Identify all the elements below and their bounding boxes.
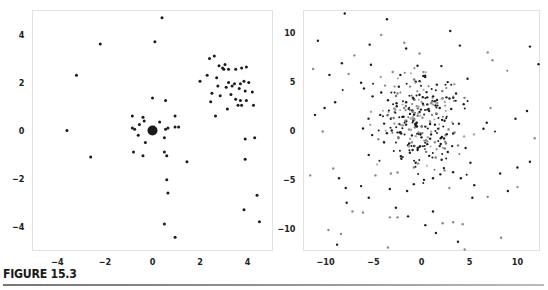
data-point: [395, 126, 397, 128]
data-point: [414, 82, 416, 84]
data-point: [400, 132, 402, 134]
data-point: [442, 116, 444, 118]
data-point: [392, 117, 394, 119]
cluster-point: [148, 126, 158, 136]
data-point: [444, 104, 446, 106]
data-point: [467, 100, 469, 102]
data-point: [407, 215, 409, 217]
data-point: [516, 166, 518, 168]
data-point: [441, 136, 443, 138]
data-point: [347, 73, 349, 75]
data-point: [360, 81, 362, 83]
data-point: [380, 76, 382, 78]
data-point: [389, 188, 391, 190]
data-point: [514, 118, 516, 120]
data-point: [351, 210, 353, 212]
data-point: [393, 150, 395, 152]
data-point: [445, 110, 447, 112]
data-point: [199, 80, 202, 83]
data-point: [405, 105, 407, 107]
data-point: [368, 43, 370, 45]
data-point: [226, 107, 229, 110]
data-point: [412, 97, 414, 99]
data-point: [443, 167, 445, 169]
data-point: [466, 174, 468, 176]
data-point: [390, 91, 392, 93]
data-point: [417, 173, 419, 175]
data-point: [237, 104, 240, 107]
data-point: [416, 90, 418, 92]
data-point: [486, 121, 488, 123]
data-point: [486, 51, 488, 53]
data-point: [418, 99, 420, 101]
data-point: [445, 87, 447, 89]
data-point: [410, 72, 412, 74]
data-point: [213, 55, 216, 58]
data-point: [413, 78, 415, 80]
data-point: [418, 52, 420, 54]
data-point: [413, 67, 415, 69]
data-point: [233, 82, 236, 85]
data-point: [163, 136, 166, 139]
data-point: [177, 125, 180, 128]
data-point: [437, 117, 439, 119]
data-point: [393, 85, 395, 87]
data-point: [435, 102, 437, 104]
data-point: [417, 106, 419, 108]
data-point: [244, 158, 247, 161]
data-point: [464, 108, 466, 110]
data-point: [387, 246, 389, 248]
data-point: [240, 104, 243, 107]
data-point: [405, 101, 407, 103]
data-point: [371, 95, 373, 97]
data-point: [534, 137, 536, 139]
data-point: [425, 71, 427, 73]
data-point: [445, 84, 447, 86]
data-point: [406, 190, 408, 192]
right-y-tick-labels: −10−50510: [277, 28, 295, 233]
data-point: [403, 41, 405, 43]
data-point: [409, 113, 411, 115]
data-point: [491, 59, 493, 61]
data-point: [342, 89, 344, 91]
data-point: [383, 122, 385, 124]
left-y-tick-labels: −4−2024: [12, 30, 25, 232]
data-point: [396, 216, 398, 218]
data-point: [391, 132, 393, 134]
data-point: [370, 64, 372, 66]
data-point: [345, 187, 347, 189]
data-point: [360, 185, 362, 187]
data-point: [227, 68, 230, 71]
data-point: [403, 107, 405, 109]
data-point: [416, 64, 418, 66]
data-point: [377, 138, 379, 140]
data-point: [404, 122, 406, 124]
data-point: [482, 128, 484, 130]
data-point: [432, 152, 434, 154]
data-point: [239, 99, 242, 102]
data-point: [369, 124, 371, 126]
data-point: [402, 104, 404, 106]
data-point: [380, 34, 382, 36]
data-point: [328, 74, 330, 76]
y-tick-label: 2: [19, 78, 25, 88]
data-point: [440, 143, 442, 145]
data-point: [447, 128, 449, 130]
data-point: [225, 86, 228, 89]
data-point: [253, 136, 256, 139]
data-point: [459, 44, 461, 46]
data-point: [314, 114, 316, 116]
data-point: [387, 99, 389, 101]
data-point: [244, 89, 247, 92]
data-point: [430, 133, 432, 135]
data-point: [418, 159, 420, 161]
data-point: [423, 89, 425, 91]
y-tick-label: 5: [290, 77, 296, 87]
data-point: [473, 184, 475, 186]
data-point: [418, 94, 420, 96]
data-point: [411, 95, 413, 97]
data-point: [441, 119, 443, 121]
data-point: [418, 80, 420, 82]
data-point: [397, 77, 399, 79]
data-point: [416, 115, 418, 117]
